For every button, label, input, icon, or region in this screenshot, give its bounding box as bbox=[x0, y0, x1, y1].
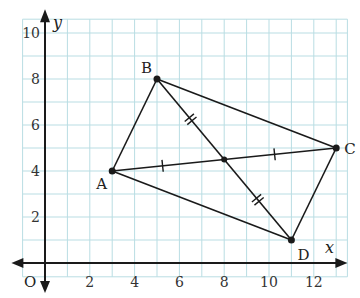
x-tick-label: 4 bbox=[130, 274, 139, 290]
x-axis-left-arrow-icon bbox=[11, 258, 23, 268]
y-axis-down-arrow-icon bbox=[40, 281, 50, 293]
point-a bbox=[109, 168, 116, 175]
x-tick-label: 2 bbox=[85, 274, 94, 290]
x-tick-label: 12 bbox=[305, 274, 323, 290]
y-tick-label: 8 bbox=[31, 71, 40, 87]
coordinate-diagram: 24681012246810OxyABCD bbox=[0, 0, 360, 298]
y-axis-label: y bbox=[52, 13, 63, 32]
point-label-d: D bbox=[297, 246, 309, 264]
point-c bbox=[333, 145, 340, 152]
y-tick-label: 10 bbox=[22, 25, 40, 41]
y-tick-label: 4 bbox=[31, 163, 40, 179]
point-b bbox=[154, 76, 161, 83]
x-tick-label: 6 bbox=[175, 274, 184, 290]
equal-tick-mark bbox=[274, 148, 275, 160]
point-d bbox=[288, 237, 295, 244]
x-tick-label: 10 bbox=[260, 274, 278, 290]
labels: 24681012246810OxyABCD bbox=[22, 13, 356, 291]
equal-tick-mark bbox=[162, 160, 163, 172]
y-axis-arrow-icon bbox=[40, 9, 50, 22]
y-tick-label: 2 bbox=[31, 209, 40, 225]
point-label-c: C bbox=[344, 140, 355, 158]
intersection-point bbox=[221, 157, 227, 163]
grid bbox=[23, 19, 348, 277]
y-tick-label: 6 bbox=[31, 117, 40, 133]
x-axis-arrow-icon bbox=[335, 258, 347, 268]
point-label-a: A bbox=[95, 175, 107, 193]
x-axis-label: x bbox=[325, 238, 334, 257]
x-tick-label: 8 bbox=[220, 274, 229, 290]
origin-label: O bbox=[24, 273, 36, 291]
point-label-b: B bbox=[141, 59, 152, 77]
